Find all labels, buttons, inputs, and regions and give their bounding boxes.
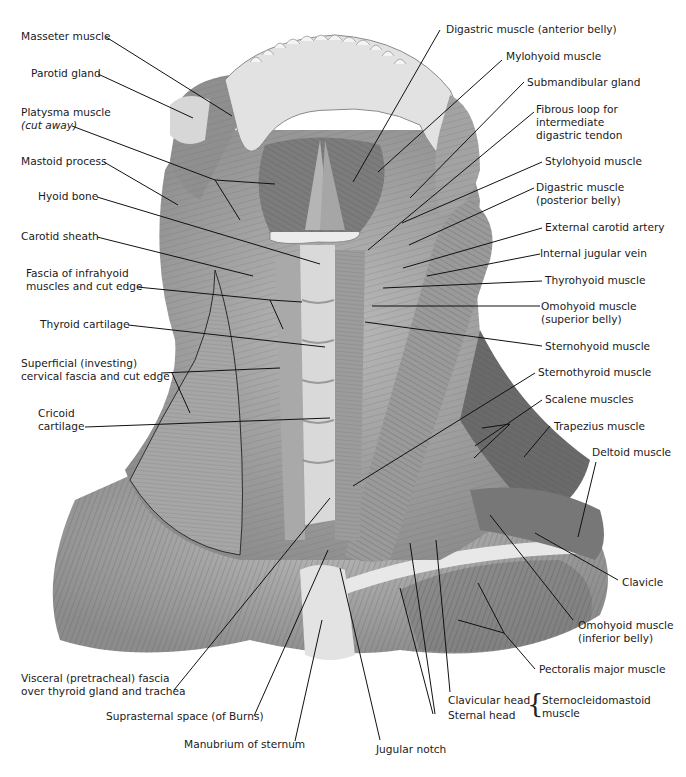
label-text-italic: (cut away) [21, 119, 111, 132]
label-sternal-head: Sternal head [448, 709, 516, 722]
label-thyroid-cartilage: Thyroid cartilage [40, 318, 130, 331]
label-text: Digastric muscle (anterior belly) [446, 23, 617, 35]
label-text: Sternal head [448, 709, 516, 721]
label-text: Sternocleidomastoid [542, 694, 651, 707]
label-clavicular-head: Clavicular head [448, 694, 530, 707]
label-text: Internal jugular vein [540, 247, 647, 259]
label-manubrium: Manubrium of sternum [184, 738, 305, 751]
label-text: External carotid artery [545, 221, 665, 233]
label-text: Scalene muscles [545, 393, 633, 405]
label-mastoid-process: Mastoid process [21, 155, 107, 168]
label-text: Digastric muscle [536, 181, 624, 194]
label-hyoid-bone: Hyoid bone [38, 190, 98, 203]
label-stylohyoid-muscle: Stylohyoid muscle [545, 155, 642, 168]
label-omohyoid-inferior: Omohyoid muscle (inferior belly) [578, 619, 673, 645]
label-omohyoid-superior: Omohyoid muscle (superior belly) [541, 300, 636, 326]
label-platysma-muscle: Platysma muscle (cut away) [21, 106, 111, 132]
label-masseter-muscle: Masseter muscle [21, 30, 110, 43]
label-text: Deltoid muscle [592, 446, 671, 458]
label-text: Thyroid cartilage [40, 318, 130, 330]
label-text: Platysma muscle [21, 106, 111, 119]
label-trapezius-muscle: Trapezius muscle [554, 420, 645, 433]
label-cricoid-cartilage: Cricoid cartilage [38, 407, 84, 433]
label-text: Omohyoid muscle [541, 300, 636, 313]
label-pectoralis-major: Pectoralis major muscle [539, 663, 665, 676]
label-clavicle: Clavicle [622, 576, 663, 589]
label-text: Trapezius muscle [554, 420, 645, 432]
label-parotid-gland: Parotid gland [31, 67, 101, 80]
label-text: Clavicular head [448, 694, 530, 706]
label-text: (superior belly) [541, 313, 636, 326]
label-text: Hyoid bone [38, 190, 98, 202]
label-text: Stylohyoid muscle [545, 155, 642, 167]
label-digastric-anterior: Digastric muscle (anterior belly) [446, 23, 617, 36]
label-external-carotid-artery: External carotid artery [545, 221, 665, 234]
label-scalene-muscles: Scalene muscles [545, 393, 633, 406]
label-digastric-posterior: Digastric muscle (posterior belly) [536, 181, 624, 207]
label-text: digastric tendon [536, 129, 622, 142]
label-text: Jugular notch [376, 743, 446, 755]
label-text: Carotid sheath [21, 230, 99, 242]
label-thyrohyoid-muscle: Thyrohyoid muscle [545, 274, 645, 287]
label-text: cervical fascia and cut edge [21, 370, 170, 383]
label-submandibular-gland: Submandibular gland [527, 76, 641, 89]
label-text: Superficial (investing) [21, 357, 170, 370]
label-mylohyoid-muscle: Mylohyoid muscle [506, 50, 601, 63]
label-text: over thyroid gland and trachea [21, 685, 186, 698]
label-fibrous-loop: Fibrous loop for intermediate digastric … [536, 103, 622, 142]
label-text: muscle [542, 707, 651, 720]
label-text: Mylohyoid muscle [506, 50, 601, 62]
label-sternothyroid-muscle: Sternothyroid muscle [538, 366, 651, 379]
label-internal-jugular-vein: Internal jugular vein [540, 247, 647, 260]
label-text: Visceral (pretracheal) fascia [21, 672, 186, 685]
label-text: (inferior belly) [578, 632, 673, 645]
label-text: Fibrous loop for [536, 103, 622, 116]
label-text: Suprasternal space (of Burns) [106, 710, 264, 722]
label-text: (posterior belly) [536, 194, 624, 207]
label-text: Manubrium of sternum [184, 738, 305, 750]
label-text: Pectoralis major muscle [539, 663, 665, 675]
label-text: intermediate [536, 116, 622, 129]
label-fascia-infrahyoid: Fascia of infrahyoid muscles and cut edg… [26, 267, 143, 293]
label-sternocleidomastoid: Sternocleidomastoid muscle [542, 694, 651, 720]
label-text: Sternohyoid muscle [545, 340, 650, 352]
label-jugular-notch: Jugular notch [376, 743, 446, 756]
label-text: Thyrohyoid muscle [545, 274, 645, 286]
label-text: Parotid gland [31, 67, 101, 79]
label-text: muscles and cut edge [26, 280, 143, 293]
label-superficial-fascia: Superficial (investing) cervical fascia … [21, 357, 170, 383]
label-text: Cricoid [38, 407, 84, 420]
label-visceral-fascia: Visceral (pretracheal) fascia over thyro… [21, 672, 186, 698]
label-text: Sternothyroid muscle [538, 366, 651, 378]
label-text: Fascia of infrahyoid [26, 267, 143, 280]
label-text: Mastoid process [21, 155, 107, 167]
label-text: Masseter muscle [21, 30, 110, 42]
label-carotid-sheath: Carotid sheath [21, 230, 99, 243]
label-sternohyoid-muscle: Sternohyoid muscle [545, 340, 650, 353]
label-suprasternal-space: Suprasternal space (of Burns) [106, 710, 264, 723]
label-text: cartilage [38, 420, 84, 433]
label-text: Clavicle [622, 576, 663, 588]
label-deltoid-muscle: Deltoid muscle [592, 446, 671, 459]
label-text: Omohyoid muscle [578, 619, 673, 632]
label-text: Submandibular gland [527, 76, 641, 88]
